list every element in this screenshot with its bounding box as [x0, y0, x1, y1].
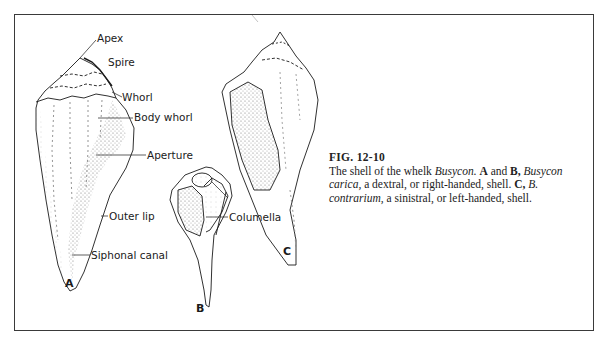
label-columella: Columella [229, 212, 281, 223]
label-siphonal-canal: Siphonal canal [91, 250, 168, 261]
label-spire: Spire [108, 57, 135, 68]
label-apex: Apex [97, 33, 123, 44]
label-whorl: Whorl [122, 92, 153, 103]
shell-b-drawing [170, 167, 232, 307]
figure-caption: FIG. 12-10 The shell of the whelk Busyco… [329, 151, 589, 205]
label-outer-lip: Outer lip [109, 211, 155, 222]
panel-label-c: C [283, 246, 291, 257]
panel-label-b: B [196, 303, 204, 314]
label-aperture: Aperture [147, 150, 193, 161]
panel-label-a: A [65, 278, 74, 289]
label-body-whorl: Body whorl [134, 112, 193, 123]
shell-c-drawing [222, 15, 318, 265]
caption-text: The shell of the whelk Busycon. A and B,… [329, 165, 563, 204]
figure-number: FIG. 12-10 [329, 151, 589, 165]
